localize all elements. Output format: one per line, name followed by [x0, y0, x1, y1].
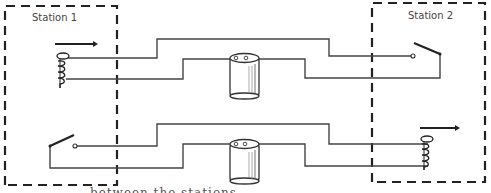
figure-caption: between the stations	[90, 186, 390, 193]
station-1-box	[5, 6, 117, 185]
telegraph-circuit-diagram	[0, 0, 491, 193]
station-1-coil-icon	[55, 41, 98, 88]
station-2-switch-icon	[411, 43, 442, 58]
station-2-label: Station 2	[408, 10, 453, 21]
station-2-coil-icon	[420, 125, 460, 170]
station-1-label: Station 1	[32, 12, 77, 23]
top-battery-icon	[230, 54, 259, 100]
bottom-battery-icon	[230, 140, 259, 185]
station-1-switch-icon	[49, 135, 78, 148]
station-2-box	[372, 3, 485, 182]
